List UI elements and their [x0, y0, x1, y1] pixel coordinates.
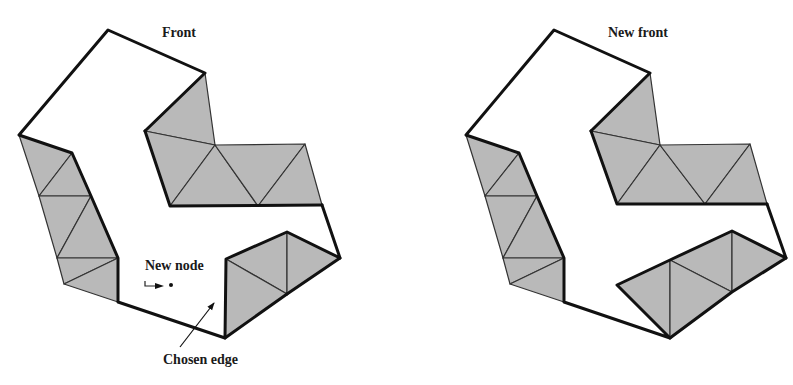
mesh-upper-right [591, 73, 767, 204]
new-node-marker [145, 281, 173, 289]
new-node-dot [169, 283, 173, 287]
mesh-upper-right [145, 73, 322, 206]
mesh-left-strip [19, 135, 118, 302]
panel-before [19, 30, 340, 347]
label-front: Front [162, 26, 196, 40]
panel-after [466, 30, 786, 338]
label-chosen-edge: Chosen edge [163, 353, 238, 367]
mesh-left-strip [466, 135, 564, 302]
label-new-front: New front [608, 26, 668, 40]
mesh-lower-right [617, 231, 786, 338]
advancing-front-diagram [0, 0, 793, 385]
label-new-node: New node [145, 259, 204, 273]
